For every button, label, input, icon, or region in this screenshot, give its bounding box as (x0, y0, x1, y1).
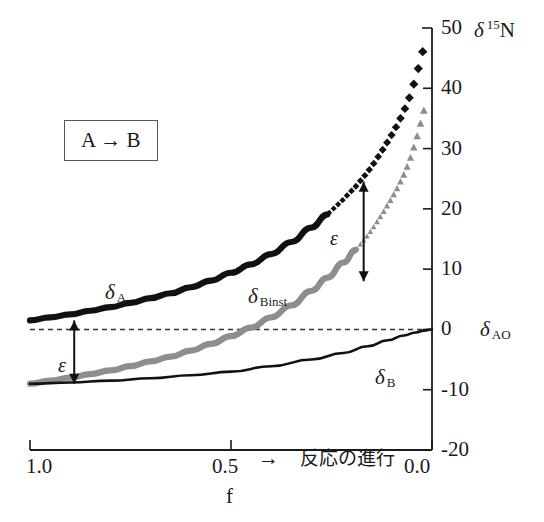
y-tick-label: 10 (441, 258, 462, 279)
epsilon-left-text: ε (58, 354, 66, 376)
data-point-diamond (335, 201, 341, 207)
data-point-diamond (331, 205, 337, 211)
data-point-triangle (404, 163, 411, 170)
epsilon-label-right: ε (330, 228, 338, 248)
data-point-triangle (368, 229, 374, 234)
data-point-triangle (397, 178, 404, 184)
data-point-diamond (339, 197, 345, 203)
epsilon-label-left: ε (58, 355, 66, 375)
series-a (30, 47, 427, 320)
x-tick-label: 0.5 (212, 456, 238, 477)
data-point-triangle (384, 203, 390, 209)
x-tick-label: 0.0 (404, 456, 430, 477)
y-tick-label: -20 (441, 439, 469, 460)
data-point-diamond (379, 146, 387, 154)
data-point-triangle (420, 106, 428, 113)
data-point-diamond (401, 104, 410, 113)
data-point-triangle (371, 224, 377, 229)
delta-ao-subscript: AO (490, 327, 511, 342)
data-point-diamond (366, 166, 373, 173)
zero-reference-label-delta-ao: δAO (480, 319, 511, 340)
data-point-diamond (405, 93, 414, 102)
data-point-diamond (396, 114, 405, 123)
delta-symbol: δ (474, 18, 484, 42)
delta-ao-symbol: δ (480, 317, 490, 341)
data-point-triangle (417, 120, 425, 127)
data-point-diamond (344, 192, 351, 199)
y-axis-title: δ15N (474, 18, 515, 41)
data-point-triangle (410, 144, 417, 151)
progress-text: 反応の進行 (300, 447, 395, 469)
data-point-triangle (381, 208, 387, 214)
reaction-label: A → B (81, 128, 141, 152)
curve-label-delta-a: δA (105, 282, 126, 303)
reaction-annotation-box: A → B (64, 120, 158, 161)
data-point-triangle (394, 185, 401, 191)
delta-binst-symbol: δ (248, 284, 258, 308)
data-point-diamond (387, 131, 395, 139)
data-point-diamond (414, 64, 423, 73)
data-point-diamond (392, 123, 400, 131)
delta-b-symbol: δ (375, 365, 385, 389)
y-tick-label: 0 (441, 318, 452, 339)
y-tick-label: 50 (441, 17, 462, 38)
data-point-triangle (390, 191, 397, 197)
data-point-triangle (400, 171, 407, 178)
data-point-triangle (413, 132, 421, 139)
mass-number-15: 15 (484, 17, 500, 32)
x-tick-label: 1.0 (26, 456, 52, 477)
data-point-diamond (383, 138, 391, 146)
y-tick-label: -10 (441, 379, 469, 400)
data-point-triangle (364, 233, 369, 238)
data-point-diamond (374, 153, 382, 161)
data-point-diamond (370, 160, 378, 168)
f-text: f (226, 484, 233, 508)
delta-a-symbol: δ (105, 280, 115, 304)
epsilon-right-arrow (359, 182, 369, 281)
data-point-diamond (348, 188, 355, 195)
data-point-triangle (387, 197, 393, 203)
delta-a-subscript: A (115, 290, 126, 305)
y-tick-label: 30 (441, 138, 462, 159)
y-tick-label: 40 (441, 77, 462, 98)
arrow-icon: → (258, 446, 279, 470)
epsilon-right-text: ε (330, 227, 338, 249)
y-tick-label: 20 (441, 198, 462, 219)
epsilon-left-arrow (69, 320, 79, 383)
isotope-fractionation-figure: δ15N A → B δA δBinst δB δAO ε ε → 反応の進行 … (0, 0, 544, 522)
data-point-triangle (407, 154, 414, 161)
x-axis-title-f: f (226, 486, 233, 507)
x-axis-progress-caption: 反応の進行 (300, 449, 395, 468)
x-axis-progress-arrow: → (258, 448, 279, 469)
data-point-triangle (374, 219, 380, 225)
data-point-diamond (409, 80, 418, 89)
curve-label-delta-binst: δBinst (248, 286, 287, 307)
element-n: N (500, 18, 515, 42)
data-point-diamond (361, 172, 368, 179)
delta-binst-subscript: Binst (258, 294, 287, 309)
curve-label-delta-b: δB (375, 367, 395, 388)
curve-thick (30, 250, 356, 384)
delta-b-subscript: B (385, 375, 396, 390)
data-point-diamond (418, 47, 427, 56)
data-point-triangle (377, 214, 383, 220)
data-point-diamond (352, 183, 359, 190)
